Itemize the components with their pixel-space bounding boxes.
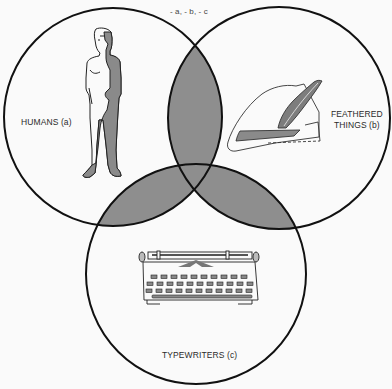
human-figure-icon <box>83 28 121 177</box>
set-label-humans: HUMANS (a) <box>21 117 72 128</box>
top-annotation: - a, - b, - c <box>170 6 208 17</box>
feathered-hat-icon <box>227 80 322 151</box>
typewriter-icon <box>139 251 259 304</box>
set-label-feathered-things: FEATHERED THINGS (b) <box>331 109 383 131</box>
set-label-typewriters: TYPEWRITERS (c) <box>162 350 237 361</box>
set-label-feathered-line2: THINGS (b) <box>331 120 383 131</box>
set-label-feathered-line1: FEATHERED <box>331 109 383 120</box>
venn-diagram: - a, - b, - c HUMANS (a) FEATHERED THING… <box>0 0 392 389</box>
venn-graphic <box>0 0 392 389</box>
